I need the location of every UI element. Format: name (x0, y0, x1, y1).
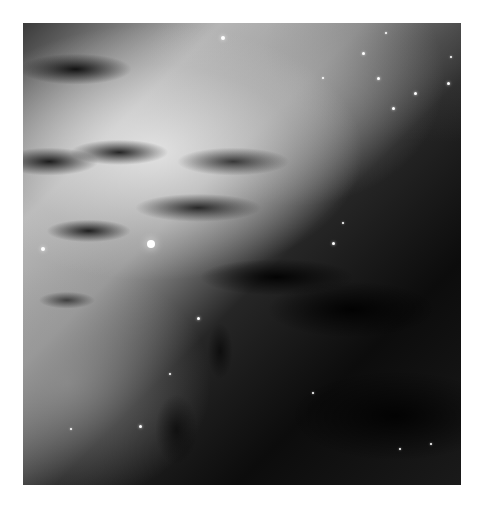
star (70, 428, 72, 430)
star (385, 32, 387, 34)
star-field (23, 23, 461, 485)
star (399, 448, 401, 450)
galaxy-image (23, 23, 461, 485)
star (414, 92, 417, 95)
star (197, 317, 200, 320)
star (41, 247, 45, 251)
star (362, 52, 365, 55)
star (430, 443, 432, 445)
star (147, 240, 155, 248)
star (450, 56, 452, 58)
star (332, 242, 335, 245)
star (342, 222, 344, 224)
star (221, 36, 225, 40)
star (139, 425, 142, 428)
star (377, 77, 380, 80)
star (392, 107, 395, 110)
star (322, 77, 324, 79)
star (312, 392, 314, 394)
star (169, 373, 171, 375)
star (447, 82, 450, 85)
